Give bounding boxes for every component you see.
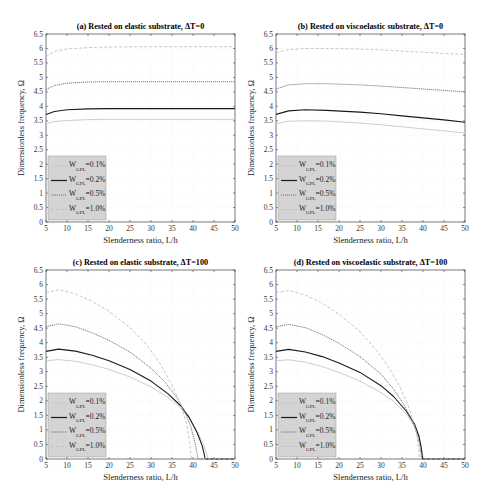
y-tick-label: 3 bbox=[269, 367, 273, 376]
y-axis-label: Dimensionless frequency, Ω bbox=[16, 316, 26, 412]
y-tick-label: 0.5 bbox=[34, 203, 44, 212]
x-tick-label: 25 bbox=[356, 224, 364, 233]
x-tick-label: 10 bbox=[293, 224, 301, 233]
y-tick-label: 1 bbox=[269, 189, 273, 198]
y-tick-label: 0.5 bbox=[264, 203, 274, 212]
y-tick-label: 2 bbox=[269, 396, 273, 405]
chart-panel-a: 510152025303540455000.511.522.533.544.55… bbox=[16, 22, 239, 245]
x-tick-label: 25 bbox=[126, 461, 134, 470]
x-tick-label: 25 bbox=[126, 224, 134, 233]
y-tick-label: 2.5 bbox=[264, 382, 274, 391]
x-tick-label: 5 bbox=[44, 224, 48, 233]
x-tick-label: 45 bbox=[210, 224, 218, 233]
series-line-w-gpl-1-0- bbox=[46, 47, 235, 57]
y-tick-label: 0 bbox=[39, 218, 43, 227]
x-tick-label: 20 bbox=[105, 461, 113, 470]
y-tick-label: 6.5 bbox=[264, 266, 274, 275]
y-tick-label: 4.5 bbox=[34, 87, 44, 96]
x-axis-label: Slenderness ratio, L/h bbox=[333, 235, 408, 245]
series-line-w-gpl-0-5- bbox=[276, 84, 465, 92]
chart-title: (d) Rested on viscoelastic substrate, ΔT… bbox=[294, 258, 448, 267]
x-tick-label: 20 bbox=[335, 461, 343, 470]
y-tick-label: 4.5 bbox=[264, 87, 274, 96]
y-tick-label: 2 bbox=[39, 160, 43, 169]
y-tick-label: 6 bbox=[269, 44, 273, 53]
x-tick-label: 35 bbox=[168, 224, 176, 233]
y-tick-label: 0.5 bbox=[264, 440, 274, 449]
x-tick-label: 5 bbox=[44, 461, 48, 470]
y-tick-label: 5 bbox=[39, 309, 43, 318]
y-tick-label: 3 bbox=[269, 131, 273, 140]
y-tick-label: 1 bbox=[39, 189, 43, 198]
y-tick-label: 4 bbox=[269, 338, 273, 347]
x-tick-label: 50 bbox=[461, 224, 469, 233]
chart-panel-b: 510152025303540455000.511.522.533.544.55… bbox=[246, 22, 469, 245]
y-tick-label: 6 bbox=[269, 280, 273, 289]
x-tick-label: 40 bbox=[419, 224, 427, 233]
chart-panel-d: 510152025303540455000.511.522.533.544.55… bbox=[246, 258, 469, 482]
x-axis-label: Slenderness ratio, L/h bbox=[103, 235, 178, 245]
data-series bbox=[276, 49, 465, 133]
x-tick-label: 40 bbox=[189, 224, 197, 233]
y-tick-label: 0 bbox=[269, 218, 273, 227]
y-tick-label: 2 bbox=[269, 160, 273, 169]
x-tick-label: 15 bbox=[84, 461, 92, 470]
y-tick-label: 1.5 bbox=[34, 411, 44, 420]
y-tick-label: 3 bbox=[39, 367, 43, 376]
x-tick-label: 20 bbox=[105, 224, 113, 233]
legend: WGPL=0.1%WGPL=0.2%WGPL=0.5%WGPL=1.0% bbox=[278, 393, 336, 457]
x-tick-label: 30 bbox=[147, 461, 155, 470]
x-tick-label: 25 bbox=[356, 461, 364, 470]
y-tick-label: 2.5 bbox=[264, 145, 274, 154]
y-tick-label: 0 bbox=[39, 455, 43, 464]
x-tick-label: 30 bbox=[377, 461, 385, 470]
x-tick-label: 5 bbox=[274, 461, 278, 470]
y-tick-label: 5.5 bbox=[264, 58, 274, 67]
y-tick-label: 0.5 bbox=[34, 440, 44, 449]
chart-panel-c: 510152025303540455000.511.522.533.544.55… bbox=[16, 258, 239, 482]
y-tick-label: 6 bbox=[39, 44, 43, 53]
y-tick-label: 3.5 bbox=[264, 353, 274, 362]
chart-title: (b) Rested on viscoelastic substrate, ΔT… bbox=[298, 22, 443, 31]
y-tick-label: 3 bbox=[39, 131, 43, 140]
data-series bbox=[46, 47, 235, 124]
y-tick-label: 6 bbox=[39, 280, 43, 289]
x-tick-label: 45 bbox=[440, 461, 448, 470]
y-tick-label: 2.5 bbox=[34, 382, 44, 391]
x-tick-label: 40 bbox=[419, 461, 427, 470]
series-line-w-gpl-0-1- bbox=[276, 121, 465, 133]
series-line-w-gpl-0-2- bbox=[46, 109, 235, 115]
y-axis-label: Dimensionless frequency, Ω bbox=[246, 316, 256, 412]
x-tick-label: 40 bbox=[189, 461, 197, 470]
y-tick-label: 6.5 bbox=[34, 266, 44, 275]
x-tick-label: 35 bbox=[398, 461, 406, 470]
y-tick-label: 4.5 bbox=[264, 324, 274, 333]
y-tick-label: 6.5 bbox=[264, 30, 274, 39]
series-line-w-gpl-0-1- bbox=[46, 119, 235, 123]
x-axis-label: Slenderness ratio, L/h bbox=[333, 472, 408, 482]
y-tick-label: 5.5 bbox=[34, 58, 44, 67]
y-tick-label: 4 bbox=[39, 102, 43, 111]
series-line-w-gpl-1-0- bbox=[276, 49, 465, 55]
x-tick-label: 35 bbox=[168, 461, 176, 470]
x-axis-label: Slenderness ratio, L/h bbox=[103, 472, 178, 482]
x-tick-label: 10 bbox=[63, 461, 71, 470]
y-tick-label: 1.5 bbox=[264, 411, 274, 420]
legend: WGPL=0.1%WGPL=0.2%WGPL=0.5%WGPL=1.0% bbox=[278, 156, 336, 220]
y-tick-label: 4 bbox=[39, 338, 43, 347]
chart-title: (c) Rested on elastic substrate, ΔT=100 bbox=[73, 258, 208, 267]
legend: WGPL=0.1%WGPL=0.2%WGPL=0.5%WGPL=1.0% bbox=[48, 156, 106, 220]
x-tick-label: 15 bbox=[84, 224, 92, 233]
x-tick-label: 5 bbox=[274, 224, 278, 233]
y-axis-label: Dimensionless frequency, Ω bbox=[246, 80, 256, 176]
y-tick-label: 0 bbox=[269, 455, 273, 464]
y-tick-label: 1.5 bbox=[264, 174, 274, 183]
y-tick-label: 5 bbox=[39, 73, 43, 82]
x-tick-label: 10 bbox=[293, 461, 301, 470]
x-tick-label: 50 bbox=[231, 461, 239, 470]
y-tick-label: 4 bbox=[269, 102, 273, 111]
y-tick-label: 1 bbox=[269, 425, 273, 434]
x-tick-label: 10 bbox=[63, 224, 71, 233]
y-tick-label: 1.5 bbox=[34, 174, 44, 183]
y-tick-label: 6.5 bbox=[34, 30, 44, 39]
